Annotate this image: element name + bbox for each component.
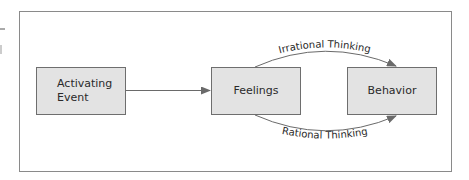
node-activating-event: Activating Event [37,68,126,115]
diagram-canvas: Activating Event Feelings Behavior Irrat… [0,0,469,180]
margin-fragment [0,29,5,54]
node-label: Behavior [368,84,417,97]
node-feelings: Feelings [212,68,301,115]
node-label: Feelings [233,84,278,97]
node-label: Event [57,91,89,104]
node-label: Activating [57,77,112,90]
node-behavior: Behavior [348,68,437,115]
